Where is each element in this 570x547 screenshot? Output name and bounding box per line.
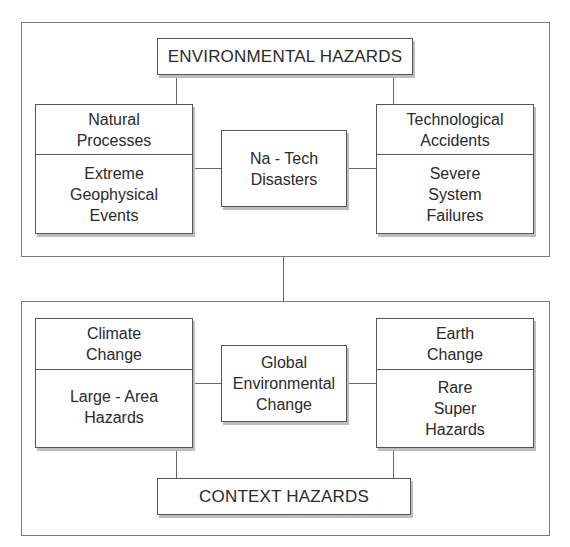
connector-natural-to-natech: [193, 168, 221, 169]
header-line: Natural: [88, 109, 140, 130]
earth-change-header: Earth Change: [377, 319, 533, 370]
body-line: Failures: [427, 205, 484, 226]
global-environmental-change-box: Global Environmental Change: [221, 345, 347, 422]
body-line: Hazards: [84, 407, 144, 428]
body-line: Severe: [430, 163, 481, 184]
connector-env-to-natural: [176, 74, 177, 104]
climate-change-header: Climate Change: [36, 319, 192, 370]
label-line: Na - Tech: [250, 148, 318, 169]
global-environmental-change-label: Global Environmental Change: [222, 346, 346, 421]
natech-disasters-label: Na - Tech Disasters: [222, 131, 346, 206]
environmental-hazards-title-box: ENVIRONMENTAL HAZARDS: [157, 38, 413, 75]
body-line: Rare: [438, 377, 473, 398]
context-hazards-title: CONTEXT HAZARDS: [158, 479, 410, 514]
connector-climate-to-context: [176, 449, 177, 478]
body-line: Extreme: [84, 163, 144, 184]
environmental-hazards-title: ENVIRONMENTAL HAZARDS: [158, 39, 412, 74]
technological-accidents-header: Technological Accidents: [377, 105, 533, 155]
label-line: Change: [256, 394, 312, 415]
connector-climate-to-global: [193, 383, 221, 384]
connector-global-to-earth: [347, 383, 376, 384]
body-line: System: [428, 184, 481, 205]
header-line: Accidents: [420, 130, 489, 151]
body-line: Super: [434, 398, 477, 419]
header-line: Earth: [436, 323, 474, 344]
natech-disasters-box: Na - Tech Disasters: [221, 130, 347, 207]
body-line: Geophysical: [70, 184, 158, 205]
label-line: Environmental: [233, 373, 335, 394]
climate-change-box: Climate Change Large - Area Hazards: [35, 318, 193, 448]
climate-change-body: Large - Area Hazards: [36, 370, 192, 447]
connector-earth-to-context: [393, 449, 394, 478]
header-line: Climate: [87, 323, 141, 344]
earth-change-body: Rare Super Hazards: [377, 370, 533, 447]
context-hazards-title-box: CONTEXT HAZARDS: [157, 478, 411, 515]
earth-change-box: Earth Change Rare Super Hazards: [376, 318, 534, 448]
header-line: Change: [86, 344, 142, 365]
natural-processes-body: Extreme Geophysical Events: [36, 155, 192, 233]
label-line: Global: [261, 352, 307, 373]
body-line: Events: [90, 205, 139, 226]
technological-accidents-body: Severe System Failures: [377, 155, 533, 233]
label-line: Disasters: [251, 169, 318, 190]
body-line: Hazards: [425, 419, 485, 440]
header-line: Processes: [77, 130, 152, 151]
connector-env-to-technological: [393, 74, 394, 104]
connector-natech-to-technological: [347, 168, 376, 169]
technological-accidents-box: Technological Accidents Severe System Fa…: [376, 104, 534, 234]
body-line: Large - Area: [70, 386, 158, 407]
natural-processes-header: Natural Processes: [36, 105, 192, 155]
header-line: Change: [427, 344, 483, 365]
connector-between-groups: [283, 256, 284, 301]
header-line: Technological: [407, 109, 504, 130]
natural-processes-box: Natural Processes Extreme Geophysical Ev…: [35, 104, 193, 234]
